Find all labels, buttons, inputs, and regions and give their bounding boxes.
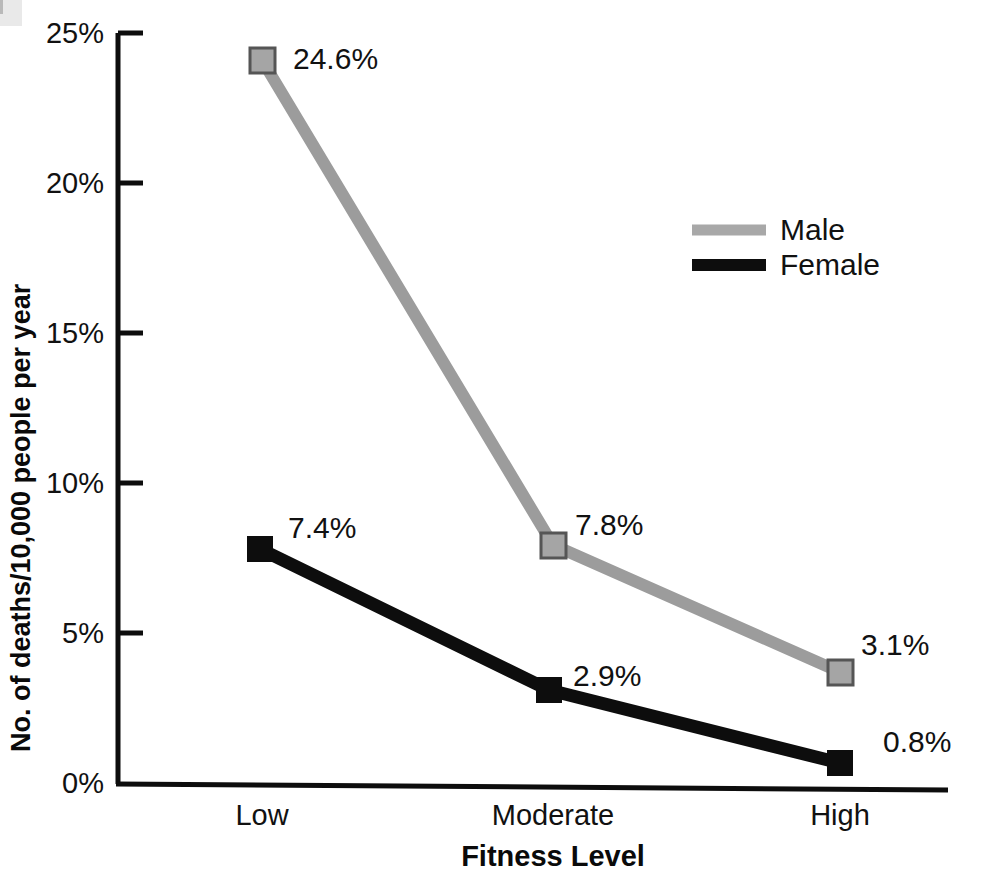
- series-female-marker: [827, 750, 853, 776]
- data-label-male-high: 3.1%: [861, 630, 929, 660]
- series-male-line: [262, 60, 840, 672]
- data-label-female-moderate: 2.9%: [573, 661, 641, 691]
- y-tick-marks: [118, 33, 143, 633]
- plot-area: [0, 0, 989, 871]
- x-tick-label-high: High: [740, 801, 940, 830]
- x-tick-label-moderate: Moderate: [453, 801, 653, 830]
- data-label-male-low: 24.6%: [293, 44, 378, 74]
- y-axis-title: No. of deaths/10,000 people per year: [8, 284, 35, 752]
- chart-figure: 25% 20% 15% 10% 5% 0% Low Moderate High …: [0, 0, 989, 871]
- x-axis-title: Fitness Level: [428, 842, 678, 871]
- series-male-marker: [250, 48, 275, 73]
- legend-label-male: Male: [780, 215, 845, 245]
- y-tick-label: 0%: [0, 769, 104, 798]
- x-tick-label-low: Low: [162, 801, 362, 830]
- y-tick-label: 20%: [0, 169, 104, 198]
- data-label-male-moderate: 7.8%: [575, 510, 643, 540]
- series-female-marker: [536, 677, 562, 703]
- series-male-marker: [541, 533, 566, 558]
- y-tick-label: 25%: [0, 19, 104, 48]
- series-female-line: [260, 549, 840, 763]
- series-female: [247, 536, 853, 776]
- series-female-marker: [247, 536, 273, 562]
- data-label-female-high: 0.8%: [883, 727, 951, 757]
- legend-label-female: Female: [780, 250, 880, 280]
- series-male-marker: [828, 660, 853, 685]
- legend-swatches: [692, 230, 766, 265]
- data-label-female-low: 7.4%: [288, 513, 356, 543]
